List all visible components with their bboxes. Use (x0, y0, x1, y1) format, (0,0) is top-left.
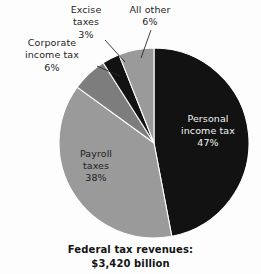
slice-label-percent: 38% (60, 172, 132, 184)
caption-line-1: Federal tax revenues: (0, 243, 261, 257)
slice-label-line1: Payroll (60, 148, 132, 160)
callout-label-percent: 3% (58, 29, 114, 41)
callout-label-line2: taxes (58, 16, 114, 28)
callout-label-percent: 6% (8, 62, 96, 74)
callout-label-line1: All other (117, 4, 183, 16)
pie-chart-figure: Personal income tax 47% Payroll taxes 38… (0, 0, 261, 274)
slice-label-line2: taxes (60, 160, 132, 172)
slice-label-payroll-taxes: Payroll taxes 38% (60, 148, 132, 184)
slice-label-line1: Personal (162, 113, 254, 125)
slice-label-personal-income-tax: Personal income tax 47% (162, 113, 254, 149)
slice-label-percent: 47% (162, 137, 254, 149)
callout-label-percent: 6% (117, 16, 183, 28)
callout-label-all-other: All other 6% (117, 4, 183, 29)
slice-label-line2: income tax (162, 125, 254, 137)
chart-caption: Federal tax revenues: $3,420 billion (0, 243, 261, 270)
callout-label-line2: income tax (8, 49, 96, 61)
callout-label-corporate-income-tax: Corporate income tax 6% (8, 37, 96, 74)
callout-label-line1: Excise (58, 4, 114, 16)
callout-label-excise-taxes: Excise taxes 3% (58, 4, 114, 41)
caption-line-2: $3,420 billion (0, 257, 261, 271)
